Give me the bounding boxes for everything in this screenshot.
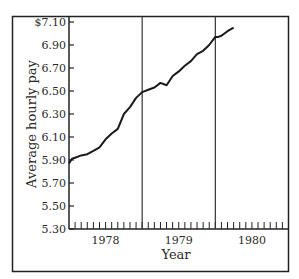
x-tick-label: 1980 (238, 234, 266, 247)
y-tick-label: 6.70 (42, 62, 67, 75)
line-chart: $7.106.906.706.506.306.105.905.705.505.3… (0, 0, 299, 279)
x-tick-label: 1978 (92, 234, 120, 247)
chart-canvas: $7.106.906.706.506.306.105.905.705.505.3… (0, 0, 299, 279)
y-axis-label: Average hourly pay (24, 59, 39, 189)
y-tick-label: 6.10 (42, 131, 67, 144)
y-tick-label: $7.10 (35, 16, 67, 29)
y-tick-label: 5.70 (42, 177, 67, 190)
y-tick-label: 6.30 (42, 108, 67, 121)
y-tick-label: 5.50 (42, 200, 67, 213)
data-line (69, 28, 234, 164)
x-axis-ticks: 197819791980 (75, 222, 282, 247)
x-tick-label: 1979 (165, 234, 193, 247)
y-tick-label: 5.90 (42, 154, 67, 167)
y-axis-ticks: $7.106.906.706.506.306.105.905.705.505.3… (35, 16, 75, 236)
x-axis-label: Year (160, 247, 191, 262)
y-tick-label: 5.30 (42, 223, 67, 236)
y-tick-label: 6.90 (42, 39, 67, 52)
y-tick-label: 6.50 (42, 85, 67, 98)
